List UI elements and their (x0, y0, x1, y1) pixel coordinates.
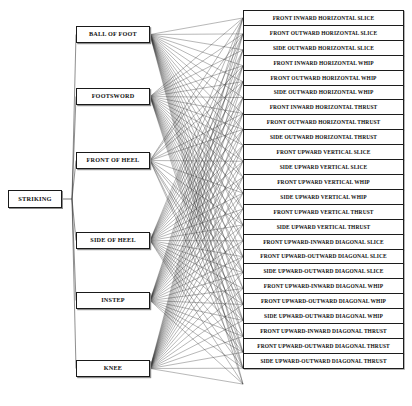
edge-side-of-heel-to-leaf-18 (150, 241, 243, 289)
edge-footsword-to-leaf-19 (150, 97, 243, 305)
edge-instep-to-leaf-7 (150, 113, 243, 300)
edge-front-of-heel-to-leaf-16 (150, 161, 243, 257)
node-instep[interactable]: INSTEP (76, 292, 150, 309)
technique-row[interactable]: FRONT OUTWARD HORIZONTAL THRUST (243, 114, 404, 130)
edge-ball-of-foot-to-leaf-22 (150, 35, 243, 353)
striking-taxonomy-diagram: STRIKING BALL OF FOOTFOOTSWORDFRONT OF H… (0, 0, 412, 406)
edge-footsword-to-leaf-24 (150, 97, 243, 385)
edge-knee-to-leaf-13 (150, 209, 243, 369)
technique-row[interactable]: SIDE UPWARD VERTICAL SLICE (243, 159, 404, 175)
technique-row[interactable]: FRONT INWARD HORIZONTAL THRUST (243, 99, 404, 115)
edge-knee-to-leaf-1 (150, 18, 243, 369)
technique-row[interactable]: FRONT OUTWARD HORIZONTAL WHIP (243, 70, 404, 86)
edge-front-of-heel-to-leaf-10 (150, 161, 243, 162)
technique-label: SIDE OUTWARD HORIZONTAL WHIP (274, 89, 374, 95)
technique-row[interactable]: FRONT UPWARD-OUTWARD DIAGONAL SLICE (243, 249, 404, 265)
technique-row[interactable]: SIDE UPWARD-OUTWARD DIAGONAL THRUST (243, 353, 404, 369)
technique-row[interactable]: SIDE OUTWARD HORIZONTAL SLICE (243, 40, 404, 56)
technique-label: SIDE UPWARD-OUTWARD DIAGONAL WHIP (264, 313, 383, 319)
edge-ball-of-foot-to-leaf-9 (150, 35, 243, 146)
edge-ball-of-foot-to-leaf-10 (150, 35, 243, 162)
edge-ball-of-foot-to-leaf-18 (150, 35, 243, 289)
technique-label: FRONT INWARD HORIZONTAL WHIP (273, 60, 373, 66)
edge-footsword-to-leaf-17 (150, 97, 243, 273)
node-knee[interactable]: KNEE (76, 360, 150, 377)
edge-instep-to-leaf-19 (150, 301, 243, 305)
edge-knee-to-leaf-19 (150, 305, 243, 369)
technique-row[interactable]: FRONT UPWARD-OUTWARD DIAGONAL THRUST (243, 338, 404, 354)
edge-instep-to-leaf-8 (150, 129, 243, 300)
edge-side-of-heel-to-leaf-7 (150, 113, 243, 240)
edge-side-of-heel-to-leaf-13 (150, 209, 243, 241)
technique-label: SIDE OUTWARD HORIZONTAL SLICE (273, 45, 374, 51)
technique-row[interactable]: FRONT INWARD HORIZONTAL WHIP (243, 55, 404, 71)
edge-side-of-heel-to-leaf-1 (150, 18, 243, 241)
edge-front-of-heel-to-leaf-23 (150, 161, 243, 369)
edge-footsword-to-leaf-11 (150, 97, 243, 178)
edge-footsword-to-leaf-4 (150, 66, 243, 97)
edge-knee-to-leaf-3 (150, 50, 243, 369)
node-ball-of-foot[interactable]: BALL OF FOOT (76, 26, 150, 43)
edge-ball-of-foot-to-leaf-15 (150, 35, 243, 241)
technique-row[interactable]: FRONT OUTWARD HORIZONTAL SLICE (243, 25, 404, 41)
edge-front-of-heel-to-leaf-7 (150, 113, 243, 160)
technique-row[interactable]: SIDE UPWARD VERTICAL WHIP (243, 189, 404, 205)
edge-ball-of-foot-to-leaf-5 (150, 35, 243, 82)
edge-footsword-to-leaf-22 (150, 97, 243, 353)
technique-row[interactable]: FRONT INWARD HORIZONTAL SLICE (243, 10, 404, 26)
edge-ball-of-foot-to-leaf-2 (150, 34, 243, 35)
edge-ball-of-foot-to-leaf-7 (150, 35, 243, 114)
edge-ball-of-foot-to-leaf-23 (150, 35, 243, 369)
node-footsword[interactable]: FOOTSWORD (76, 88, 150, 105)
technique-row[interactable]: FRONT UPWARD VERTICAL SLICE (243, 144, 404, 160)
edge-side-of-heel-to-leaf-20 (150, 241, 243, 321)
node-label: KNEE (104, 365, 122, 371)
node-label: FOOTSWORD (92, 93, 135, 99)
edge-instep-to-leaf-16 (150, 257, 243, 301)
node-front-of-heel[interactable]: FRONT OF HEEL (76, 152, 150, 169)
technique-row[interactable]: SIDE UPWARD-OUTWARD DIAGONAL WHIP (243, 308, 404, 324)
edge-side-of-heel-to-leaf-19 (150, 241, 243, 305)
node-striking[interactable]: STRIKING (8, 190, 62, 208)
technique-row[interactable]: FRONT UPWARD VERTICAL WHIP (243, 174, 404, 190)
edge-knee-to-leaf-20 (150, 320, 243, 368)
edge-ball-of-foot-to-leaf-6 (150, 35, 243, 98)
technique-row[interactable]: SIDE UPWARD VERTICAL THRUST (243, 219, 404, 235)
technique-row[interactable]: SIDE OUTWARD HORIZONTAL WHIP (243, 85, 404, 101)
technique-row[interactable]: FRONT UPWARD-INWARD DIAGONAL THRUST (243, 323, 404, 339)
edge-side-of-heel-to-leaf-4 (150, 66, 243, 241)
edge-ball-of-foot-to-leaf-8 (150, 35, 243, 130)
technique-label: SIDE UPWARD VERTICAL WHIP (280, 194, 366, 200)
technique-label: SIDE OUTWARD HORIZONTAL THRUST (270, 134, 377, 140)
technique-row[interactable]: FRONT UPWARD-OUTWARD DIAGONAL WHIP (243, 293, 404, 309)
edge-side-of-heel-to-leaf-9 (150, 145, 243, 240)
technique-label: SIDE UPWARD-OUTWARD DIAGONAL SLICE (263, 268, 383, 274)
edge-front-of-heel-to-leaf-22 (150, 161, 243, 353)
edge-instep-to-leaf-10 (150, 161, 243, 300)
edge-instep-to-leaf-15 (150, 241, 243, 301)
edge-knee-to-leaf-2 (150, 34, 243, 369)
technique-row[interactable]: FRONT UPWARD-INWARD DIAGONAL WHIP (243, 278, 404, 294)
technique-label: FRONT INWARD HORIZONTAL SLICE (273, 15, 375, 21)
technique-label: FRONT UPWARD-OUTWARD DIAGONAL THRUST (257, 343, 390, 349)
node-side-of-heel[interactable]: SIDE OF HEEL (76, 232, 150, 249)
edge-side-of-heel-to-leaf-16 (150, 241, 243, 257)
technique-row[interactable]: FRONT UPWARD VERTICAL THRUST (243, 204, 404, 220)
technique-row[interactable]: SIDE UPWARD-OUTWARD DIAGONAL SLICE (243, 263, 404, 279)
edge-instep-to-leaf-18 (150, 289, 243, 301)
edge-footsword-to-leaf-3 (150, 50, 243, 97)
edge-knee-to-leaf-11 (150, 177, 243, 368)
edge-footsword-to-leaf-18 (150, 97, 243, 289)
edge-side-of-heel-to-leaf-22 (150, 241, 243, 353)
edge-ball-of-foot-to-leaf-14 (150, 35, 243, 225)
edge-side-of-heel-to-leaf-8 (150, 129, 243, 240)
edge-front-of-heel-to-leaf-2 (150, 34, 243, 161)
edge-side-of-heel-to-leaf-14 (150, 225, 243, 241)
technique-row[interactable]: FRONT UPWARD-INWARD DIAGONAL SLICE (243, 234, 404, 250)
edge-instep-to-leaf-1 (150, 18, 243, 301)
edge-ball-of-foot-to-leaf-24 (150, 35, 243, 385)
edge-instep-to-leaf-20 (150, 301, 243, 321)
edge-ball-of-foot-to-leaf-1 (150, 18, 243, 35)
edge-side-of-heel-to-leaf-3 (150, 50, 243, 241)
technique-row[interactable]: SIDE OUTWARD HORIZONTAL THRUST (243, 129, 404, 145)
